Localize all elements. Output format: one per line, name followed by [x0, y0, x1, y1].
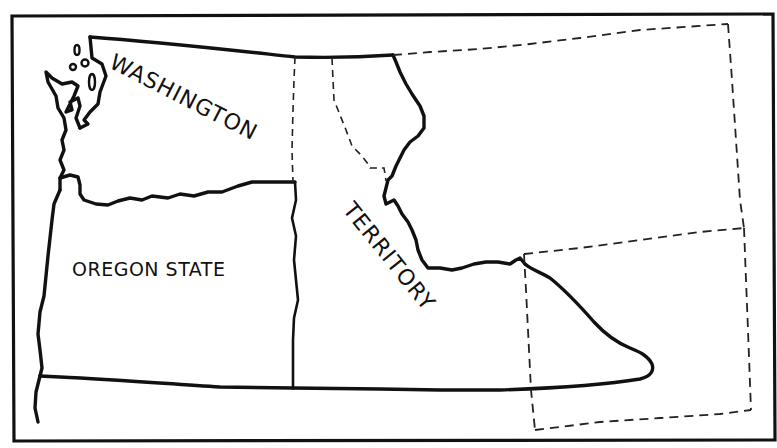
- map-canvas: WASHINGTON TERRITORY OREGON STATE: [0, 0, 777, 448]
- label-oregon-state: OREGON STATE: [72, 258, 225, 280]
- island-1: [75, 45, 80, 55]
- dashed-line-southeast-west: [524, 254, 535, 430]
- dashed-line-east-vertical: [728, 24, 744, 228]
- island-3: [82, 60, 89, 67]
- dashed-line-interior-west: [332, 58, 386, 181]
- oregon-south-border: [40, 376, 293, 388]
- dashed-line-southeast-bottom: [535, 410, 751, 430]
- island-4: [89, 74, 95, 90]
- washington-north-border: [90, 37, 393, 57]
- washington-olympic-coast: [46, 72, 80, 190]
- dashed-line-southeast-top: [524, 228, 744, 254]
- california-coast: [35, 376, 40, 422]
- island-2: [70, 64, 76, 70]
- columbia-river-border: [60, 175, 295, 205]
- label-washington: WASHINGTON: [106, 49, 262, 145]
- territory-south-border: [293, 264, 653, 390]
- dashed-line-north-east: [393, 24, 728, 55]
- oregon-east-border: [292, 182, 298, 388]
- bitterroot-border: [384, 55, 525, 270]
- label-territory: TERRITORY: [337, 197, 440, 316]
- dashed-line-southeast-east: [744, 228, 751, 410]
- dashed-line-wa-idaho-west: [292, 57, 295, 182]
- washington-puget-coast: [80, 37, 106, 128]
- oregon-coast: [38, 190, 60, 376]
